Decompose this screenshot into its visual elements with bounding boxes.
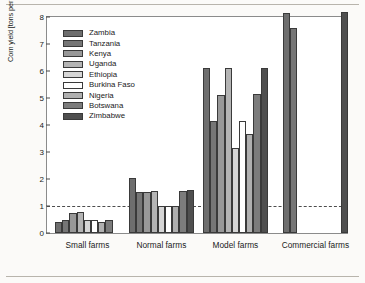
bar: [136, 192, 143, 233]
legend-item[interactable]: Kenya: [63, 49, 158, 59]
x-tick-label: Small farms: [65, 240, 109, 250]
bar: [283, 13, 290, 233]
bar: [55, 222, 62, 233]
legend-swatch-icon: [63, 92, 83, 99]
y-tick-label: 8: [10, 13, 44, 22]
y-tick-mark: [46, 44, 50, 45]
legend-item[interactable]: Burkina Faso: [63, 80, 158, 90]
page-rule-top: [6, 4, 359, 5]
corn-yield-bar-chart: Corn yield [tons per hectare] 012345678 …: [8, 10, 357, 258]
legend-item-label: Zambia: [89, 29, 115, 37]
x-tick-label: Commercial farms: [282, 240, 349, 250]
legend-item[interactable]: Nigeria: [63, 90, 158, 100]
legend-item[interactable]: Tanzania: [63, 38, 158, 48]
legend-item-label: Uganda: [89, 60, 116, 68]
bar: [143, 192, 150, 233]
bar: [84, 220, 91, 233]
legend-swatch-icon: [63, 82, 83, 89]
bar: [129, 178, 136, 233]
legend-item-label: Tanzania: [89, 40, 120, 48]
legend-item-label: Kenya: [89, 50, 111, 58]
legend-swatch-icon: [63, 71, 83, 78]
y-tick-mark: [46, 71, 50, 72]
y-tick-label: 6: [10, 67, 44, 76]
bar: [253, 94, 260, 233]
y-tick-mark: [46, 206, 50, 207]
y-tick-mark: [46, 179, 50, 180]
legend-item-label: Ethiopia: [89, 71, 117, 79]
y-tick-mark: [46, 233, 50, 234]
bar: [98, 222, 105, 233]
bar: [165, 206, 172, 233]
y-tick-mark: [46, 98, 50, 99]
legend-item[interactable]: Uganda: [63, 59, 158, 69]
bar: [91, 220, 98, 234]
legend-item[interactable]: Zimbabwe: [63, 111, 158, 121]
y-tick-label: 0: [10, 229, 44, 238]
bar: [261, 68, 268, 233]
bar: [151, 191, 158, 233]
y-axis-tick-labels: 012345678: [8, 16, 44, 234]
y-tick-label: 4: [10, 121, 44, 130]
figure-page: Corn yield [tons per hectare] 012345678 …: [0, 0, 365, 283]
legend-swatch-icon: [63, 102, 83, 109]
bar: [158, 206, 165, 233]
bar: [203, 68, 210, 233]
x-tick-label: Normal farms: [136, 240, 186, 250]
bar: [290, 28, 297, 233]
bar-group: [203, 17, 268, 233]
bar-group: [283, 17, 348, 233]
bar: [239, 121, 246, 233]
legend-item[interactable]: Botswana: [63, 101, 158, 111]
legend-swatch-icon: [63, 30, 83, 37]
bar: [172, 206, 179, 233]
bar: [246, 134, 253, 233]
y-tick-label: 2: [10, 175, 44, 184]
y-tick-label: 1: [10, 202, 44, 211]
y-tick-mark: [46, 125, 50, 126]
y-tick-label: 5: [10, 94, 44, 103]
y-tick-mark: [46, 152, 50, 153]
y-tick-label: 3: [10, 148, 44, 157]
x-tick-label: Model farms: [213, 240, 259, 250]
legend-swatch-icon: [63, 50, 83, 57]
bar: [62, 220, 69, 233]
legend-swatch-icon: [63, 113, 83, 120]
bar: [210, 121, 217, 233]
legend-swatch-icon: [63, 40, 83, 47]
y-tick-label: 7: [10, 40, 44, 49]
legend-item[interactable]: Zambia: [63, 28, 158, 38]
legend-swatch-icon: [63, 61, 83, 68]
bar: [225, 68, 232, 233]
bar: [187, 190, 194, 233]
bar: [232, 148, 239, 233]
bar: [217, 95, 224, 233]
chart-legend: ZambiaTanzaniaKenyaUgandaEthiopiaBurkina…: [63, 28, 158, 122]
bar: [341, 12, 348, 233]
legend-item-label: Burkina Faso: [89, 81, 135, 89]
bar: [69, 213, 76, 233]
page-rule-bottom: [6, 276, 359, 277]
legend-item-label: Nigeria: [89, 92, 114, 100]
bar: [77, 212, 84, 233]
legend-item[interactable]: Ethiopia: [63, 70, 158, 80]
bar: [105, 220, 112, 234]
bar: [179, 191, 186, 233]
legend-item-label: Botswana: [89, 102, 123, 110]
legend-item-label: Zimbabwe: [89, 112, 125, 120]
y-tick-mark: [46, 17, 50, 18]
